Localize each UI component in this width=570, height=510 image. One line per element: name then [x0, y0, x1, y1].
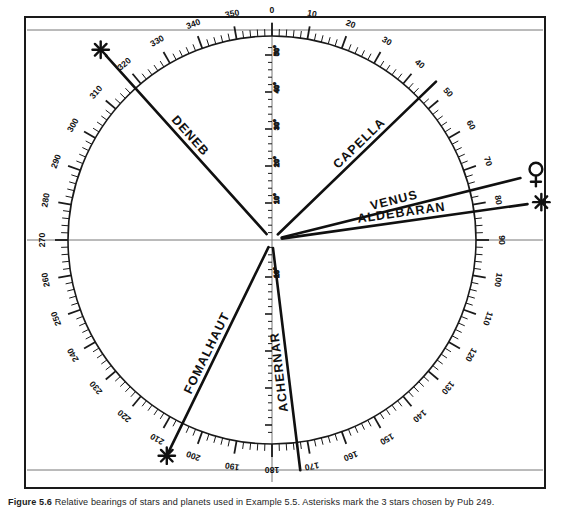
tick-28 [368, 54, 371, 60]
bearing-label-210: 210 [148, 431, 166, 447]
tick-150 [374, 417, 381, 428]
construction-rules [27, 22, 543, 482]
tick-202 [193, 429, 196, 435]
tick-132 [424, 377, 429, 382]
body-label-deneb: DENEB [169, 113, 212, 159]
tick-290 [68, 166, 80, 170]
tick-346 [221, 35, 223, 42]
tick-120 [449, 342, 460, 349]
tick-22 [348, 44, 351, 50]
tick-300 [84, 132, 95, 139]
bearing-label-180: 180 [265, 465, 280, 475]
bearing-label-40: 40 [413, 57, 427, 71]
bearing-label-260: 260 [39, 272, 51, 288]
bearing-label-290: 290 [49, 153, 63, 170]
tick-42 [409, 83, 414, 88]
tick-276 [62, 218, 69, 219]
bearing-label-80: 80 [493, 194, 505, 205]
tick-146 [386, 409, 390, 415]
tick-192 [228, 440, 229, 447]
tick-306 [101, 116, 107, 120]
tick-78 [472, 196, 479, 197]
tick-20 [342, 36, 346, 48]
body-markers [93, 42, 550, 464]
tick-124 [441, 354, 447, 358]
tick-114 [458, 323, 464, 326]
tick-236 [97, 354, 103, 358]
bearing-label-230: 230 [87, 379, 104, 397]
tick-350 [234, 26, 236, 39]
marker-asterisk-deneb [93, 42, 109, 58]
bearing-label-50: 50 [441, 85, 455, 99]
tick-232 [106, 366, 112, 370]
tick-240 [84, 342, 95, 349]
tick-72 [466, 175, 473, 177]
tick-116 [455, 329, 461, 332]
tick-330 [164, 52, 171, 63]
bearing-label-90: 90 [497, 235, 507, 245]
tick-332 [173, 54, 176, 60]
tick-158 [348, 429, 351, 435]
tick-26 [361, 50, 364, 56]
bearing-label-340: 340 [185, 17, 202, 31]
bearing-label-200: 200 [185, 449, 202, 463]
tick-60 [449, 132, 460, 139]
bearing-label-70: 70 [482, 155, 495, 168]
tick-62 [452, 141, 458, 144]
tick-156 [355, 426, 358, 432]
tick-210 [164, 417, 171, 428]
tick-58 [445, 128, 451, 132]
alt-label-up-20°: 20° [272, 156, 281, 167]
bearing-label-330: 330 [148, 33, 166, 49]
tick-64 [455, 148, 461, 151]
tick-40 [403, 74, 411, 84]
tick-142 [398, 401, 402, 407]
marker-asterisk-aldebaran [533, 194, 549, 210]
tick-286 [69, 182, 76, 184]
tick-34 [386, 65, 390, 71]
tick-166 [321, 438, 323, 445]
tick-282 [66, 196, 73, 197]
tick-216 [148, 405, 152, 411]
tick-84 [475, 218, 482, 219]
tick-228 [115, 377, 120, 382]
tick-16 [328, 37, 330, 44]
tick-298 [86, 141, 92, 144]
tick-174 [293, 443, 294, 450]
tick-258 [66, 282, 73, 283]
tick-280 [58, 202, 71, 204]
tick-314 [120, 93, 125, 98]
tick-242 [86, 336, 92, 339]
tick-264 [62, 261, 69, 262]
alt-label-up-50°: 50° [272, 45, 281, 56]
tick-98 [474, 268, 481, 269]
tick-198 [207, 434, 209, 441]
bearing-label-350: 350 [224, 7, 240, 19]
tick-188 [243, 442, 244, 449]
tick-14 [321, 35, 323, 42]
bearing-label-150: 150 [378, 431, 396, 447]
tick-208 [173, 420, 176, 426]
tick-218 [142, 401, 146, 407]
tick-152 [368, 420, 371, 426]
tick-250 [68, 310, 80, 314]
alt-label-up-30°: 30° [272, 119, 281, 130]
bearing-label-250: 250 [49, 310, 63, 327]
tick-234 [101, 360, 107, 364]
bearing-label-300: 300 [65, 116, 81, 134]
marker-asterisk-fomalhaut [159, 448, 175, 464]
tick-212 [160, 413, 164, 419]
bearing-label-220: 220 [115, 408, 133, 425]
bearing-label-130: 130 [440, 379, 457, 397]
bearing-label-120: 120 [463, 346, 479, 364]
bearing-label-240: 240 [65, 346, 81, 364]
tick-112 [461, 316, 467, 319]
tick-160 [342, 432, 346, 444]
tick-148 [380, 413, 384, 419]
tick-294 [79, 154, 85, 157]
tick-32 [380, 61, 384, 67]
tick-336 [186, 47, 189, 53]
tick-104 [470, 289, 477, 291]
bearing-label-170: 170 [304, 460, 320, 472]
tick-248 [76, 316, 82, 319]
